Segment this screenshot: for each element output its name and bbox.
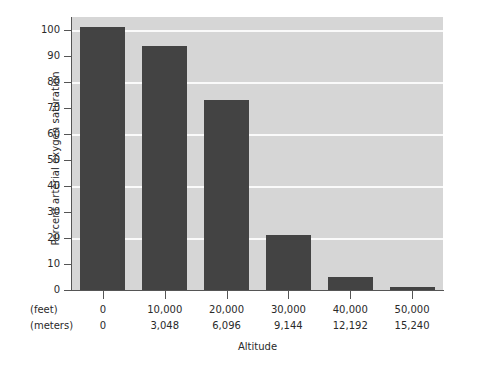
x-axis-title: Altitude [72, 341, 443, 352]
gridline [72, 82, 443, 84]
y-axis-tick [64, 134, 72, 135]
x-axis-tick-label: 0 [68, 304, 138, 315]
y-axis-tick-label: 10 [20, 259, 60, 269]
y-axis-tick [64, 238, 72, 239]
y-axis-tick-label: 40 [20, 181, 60, 191]
y-axis-tick [64, 56, 72, 57]
bar [390, 287, 435, 290]
y-axis-tick [64, 160, 72, 161]
y-axis-tick-label: 0 [20, 285, 60, 295]
x-axis-unit-label: (meters) [30, 320, 73, 331]
y-axis-tick-label: 30 [20, 207, 60, 217]
x-axis-line [71, 290, 444, 291]
x-axis-tick [165, 291, 166, 299]
gridline [72, 134, 443, 136]
x-axis-tick-label: 6,096 [192, 320, 262, 331]
gridline [72, 238, 443, 240]
gridline [72, 186, 443, 188]
x-axis-tick-label: 12,192 [315, 320, 385, 331]
bar [266, 235, 311, 290]
x-axis-tick [350, 291, 351, 299]
y-axis-tick-label: 60 [20, 129, 60, 139]
x-axis-tick-label: 20,000 [192, 304, 262, 315]
gridline [72, 30, 443, 32]
x-axis-tick-label: 50,000 [377, 304, 447, 315]
x-axis-tick-label: 15,240 [377, 320, 447, 331]
y-axis-tick-label: 20 [20, 233, 60, 243]
x-axis-tick-label: 10,000 [130, 304, 200, 315]
chart-figure: Percent arterial oxygen saturation 01020… [0, 0, 487, 369]
x-axis-tick [103, 291, 104, 299]
y-axis-line [71, 17, 72, 291]
bar [328, 277, 373, 290]
y-axis-tick [64, 82, 72, 83]
x-axis-tick-label: 0 [68, 320, 138, 331]
x-axis-tick [288, 291, 289, 299]
y-axis-tick [64, 186, 72, 187]
y-axis-tick-label: 50 [20, 155, 60, 165]
x-axis-unit-label: (feet) [30, 304, 58, 315]
bar [204, 100, 249, 290]
y-axis-tick-label: 70 [20, 103, 60, 113]
x-axis-tick [227, 291, 228, 299]
y-axis-tick-label: 90 [20, 51, 60, 61]
y-axis-tick-label: 80 [20, 77, 60, 87]
bar [80, 27, 125, 290]
y-axis-tick [64, 290, 72, 291]
bar [142, 46, 187, 290]
y-axis-tick [64, 212, 72, 213]
plot-area [72, 17, 443, 290]
y-axis-tick-label: 100 [20, 25, 60, 35]
y-axis-tick [64, 264, 72, 265]
x-axis-tick-label: 9,144 [253, 320, 323, 331]
x-axis-tick-label: 40,000 [315, 304, 385, 315]
x-axis-tick [412, 291, 413, 299]
y-axis-tick [64, 30, 72, 31]
x-axis-tick-label: 3,048 [130, 320, 200, 331]
y-axis-tick [64, 108, 72, 109]
x-axis-tick-label: 30,000 [253, 304, 323, 315]
